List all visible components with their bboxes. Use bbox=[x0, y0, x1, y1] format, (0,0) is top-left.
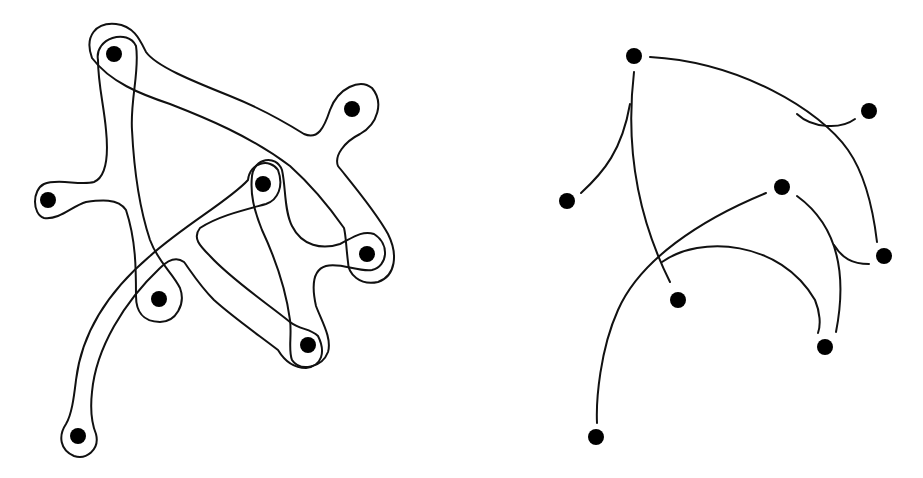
vertex-f bbox=[151, 291, 167, 307]
vertex-h bbox=[70, 428, 86, 444]
vertex-b bbox=[344, 101, 360, 117]
vertex-d bbox=[774, 179, 790, 195]
vertex-e bbox=[876, 248, 892, 264]
hyperedge-blob-a-c-f bbox=[35, 37, 182, 322]
hyperedge-blob-a-b-e bbox=[89, 24, 393, 283]
vertex-a bbox=[106, 46, 122, 62]
vertex-h bbox=[588, 429, 604, 445]
vertex-g bbox=[300, 337, 316, 353]
vertex-c bbox=[40, 192, 56, 208]
hyperedge-blob-d-h-g bbox=[61, 163, 322, 457]
right-panel-curve-drawing bbox=[581, 57, 877, 423]
curve-branch-to-b bbox=[797, 114, 855, 126]
vertex-d bbox=[255, 176, 271, 192]
curve-a-to-f bbox=[631, 72, 670, 282]
hypergraph-figure bbox=[0, 0, 923, 478]
vertex-a bbox=[626, 48, 642, 64]
left-panel-subset-drawing bbox=[35, 24, 394, 457]
vertex-c bbox=[559, 193, 575, 209]
curve-a-to-e bbox=[650, 57, 877, 242]
vertex-b bbox=[861, 103, 877, 119]
left-panel-vertices bbox=[40, 46, 375, 444]
vertex-e bbox=[359, 246, 375, 262]
curve-branch-to-c bbox=[581, 104, 630, 193]
vertex-f bbox=[670, 292, 686, 308]
curve-branch-to-g bbox=[662, 246, 820, 333]
vertex-g bbox=[817, 339, 833, 355]
curve-branch-to-e bbox=[834, 245, 869, 264]
curve-d-to-h bbox=[597, 193, 766, 423]
